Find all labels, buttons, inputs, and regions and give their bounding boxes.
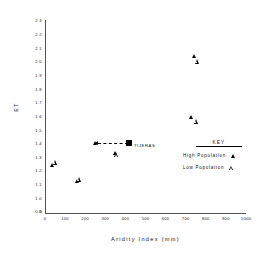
data-point-low-population: [77, 177, 81, 182]
y-tick-label: 2.1: [26, 47, 42, 53]
data-point-low-population: [53, 160, 57, 165]
y-tick-label: 1.6: [26, 115, 42, 121]
y-tick-text: 1.2: [28, 169, 42, 174]
data-point-high-population: [192, 54, 196, 58]
y-tick-label: 1.3: [26, 156, 42, 162]
legend-label-high-population: High Population: [183, 153, 226, 158]
tijeras-arrow-head: [95, 141, 98, 145]
y-tick-text: 1.7: [28, 101, 42, 106]
y-tick-label: 2.0: [26, 60, 42, 66]
y-tick-label: 1.7: [26, 101, 42, 107]
y-tick-label: 1.1: [26, 183, 42, 189]
open-triangle-icon: [226, 166, 236, 170]
data-point-low-population: [195, 59, 199, 64]
data-point-low-population: [194, 119, 198, 124]
legend-entry-high-population: High Population: [183, 152, 255, 159]
x-tick-label: 1000: [233, 216, 259, 221]
chart-figure: ET Aridity Index (mm) 2.32.22.12.01.91.8…: [0, 0, 259, 256]
x-tick-text: 1000: [233, 216, 259, 221]
legend: KEY High Population Low Population: [183, 140, 255, 171]
tijeras-point-label: TIJERAS: [134, 143, 155, 148]
y-tick-text: 2.3: [28, 19, 42, 24]
y-tick-label: 1.8: [26, 88, 42, 94]
y-tick-text: 2.0: [28, 60, 42, 65]
y-tick-label: 1.0: [26, 197, 42, 203]
y-tick-label: 2.2: [26, 33, 42, 39]
y-tick-text: 2.1: [28, 47, 42, 52]
legend-entry-low-population: Low Population: [183, 164, 255, 171]
y-tick-text: 1.1: [28, 183, 42, 188]
y-tick-label: 1.2: [26, 169, 42, 175]
y-axis-title: ET: [13, 87, 19, 127]
data-point-high-population: [189, 115, 193, 119]
y-axis-line: [45, 20, 46, 214]
x-axis-title: Aridity Index (mm): [45, 236, 246, 242]
y-tick-text: 1.4: [28, 142, 42, 147]
y-tick-text: 1.9: [28, 74, 42, 79]
y-axis-origin-label: 0: [26, 210, 42, 216]
y-tick-text: 2.2: [28, 33, 42, 38]
y-tick-text: 0: [28, 210, 42, 215]
legend-label-low-population: Low Population: [183, 165, 224, 170]
y-tick-text: 1.8: [28, 88, 42, 93]
y-tick-label: 1.9: [26, 74, 42, 80]
data-point-low-population: [114, 152, 118, 157]
y-tick-label: 1.4: [26, 142, 42, 148]
y-tick-text: 1.3: [28, 156, 42, 161]
y-tick-label: 2.3: [26, 19, 42, 25]
x-axis-line: [45, 213, 246, 214]
y-tick-text: 1.0: [28, 197, 42, 202]
filled-triangle-icon: [228, 154, 238, 158]
tijeras-arrow-line: [98, 143, 128, 144]
y-tick-text: 1.5: [28, 129, 42, 134]
y-tick-text: 1.6: [28, 115, 42, 120]
data-points-layer: [0, 0, 259, 12]
y-tick-label: 1.5: [26, 129, 42, 135]
legend-title: KEY: [196, 140, 242, 147]
